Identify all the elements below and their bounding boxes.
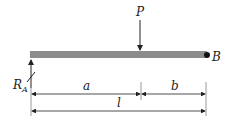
label-a: a bbox=[83, 79, 90, 93]
support-b-pin bbox=[204, 52, 210, 58]
label-p: P bbox=[135, 5, 145, 19]
beam-diagram: B P RA a b l bbox=[0, 0, 227, 124]
label-b: B bbox=[211, 50, 221, 64]
label-l: l bbox=[117, 96, 121, 110]
label-b-dim: b bbox=[171, 79, 179, 93]
label-ra: RA bbox=[12, 78, 28, 94]
beam bbox=[30, 51, 207, 58]
